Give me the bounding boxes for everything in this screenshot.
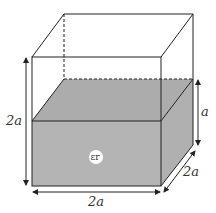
diagram-canvas: 2a a 2a 2a εr bbox=[0, 0, 216, 213]
label-height-total: 2a bbox=[5, 113, 22, 128]
label-fill-height: a bbox=[201, 104, 209, 119]
box-diagram: 2a a 2a 2a εr bbox=[0, 0, 216, 213]
label-depth: 2a bbox=[182, 164, 199, 179]
label-dielectric: εr bbox=[91, 152, 101, 162]
hidden-edges bbox=[64, 14, 193, 79]
label-width: 2a bbox=[87, 194, 104, 209]
